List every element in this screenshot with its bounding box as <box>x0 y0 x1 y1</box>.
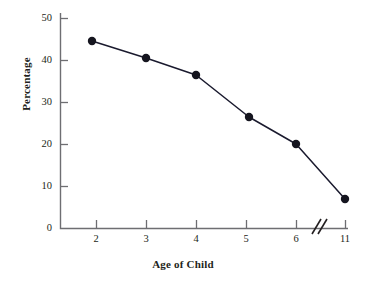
y-axis-ticks <box>61 19 69 187</box>
data-point-markers <box>88 37 349 203</box>
x-tick-label-11: 11 <box>334 233 356 244</box>
x-axis-ticks <box>97 220 346 229</box>
data-series-line <box>92 41 345 199</box>
data-point <box>192 71 200 79</box>
axis-break-icon <box>312 219 327 234</box>
data-point <box>341 195 349 203</box>
chart-canvas <box>0 0 366 283</box>
data-point <box>292 140 300 148</box>
x-tick-label-5: 5 <box>235 233 257 244</box>
x-tick-label-4: 4 <box>185 233 207 244</box>
y-tick-label-0: 0 <box>26 222 52 233</box>
y-tick-label-10: 10 <box>26 180 52 191</box>
data-point <box>88 37 96 45</box>
data-point <box>245 113 253 121</box>
data-point <box>142 54 150 62</box>
chart-figure: 50 40 30 20 10 0 2 3 4 5 6 11 Percentage… <box>0 0 366 283</box>
y-tick-label-20: 20 <box>26 138 52 149</box>
x-tick-label-6: 6 <box>285 233 307 244</box>
y-tick-label-50: 50 <box>26 12 52 23</box>
x-tick-label-2: 2 <box>85 233 107 244</box>
y-axis-title: Percentage <box>20 36 32 132</box>
x-tick-label-3: 3 <box>135 233 157 244</box>
x-axis-title: Age of Child <box>0 258 366 270</box>
